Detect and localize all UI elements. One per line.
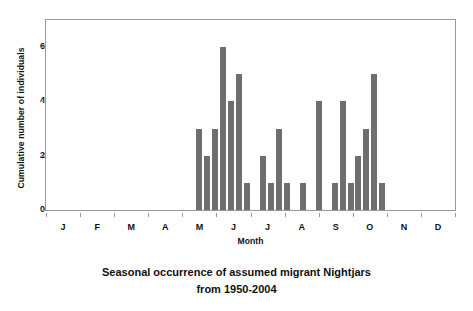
- x-tick-label: J: [256, 222, 280, 232]
- x-tick-mark: [80, 213, 81, 217]
- bar: [363, 129, 369, 210]
- bar: [236, 74, 242, 210]
- x-tick-label: O: [358, 222, 382, 232]
- bar: [228, 101, 234, 210]
- bar: [196, 129, 202, 210]
- bar: [260, 156, 266, 210]
- x-tick-mark: [216, 213, 217, 217]
- x-tick-mark: [353, 213, 354, 217]
- x-tick-mark: [421, 213, 422, 217]
- x-axis-ticks: JFMAMJJASOND: [46, 213, 455, 235]
- x-tick-mark: [148, 213, 149, 217]
- bar: [355, 156, 361, 210]
- x-tick-label: M: [119, 222, 143, 232]
- bar: [244, 183, 250, 210]
- x-tick-label: D: [426, 222, 450, 232]
- chart-title-line-2: from 1950-2004: [26, 281, 447, 298]
- bar: [340, 101, 346, 210]
- bar: [204, 156, 210, 210]
- x-tick-label: S: [324, 222, 348, 232]
- x-tick-mark: [114, 213, 115, 217]
- bar: [220, 47, 226, 210]
- chart-title: Seasonal occurrence of assumed migrant N…: [26, 264, 447, 298]
- bar: [332, 183, 338, 210]
- x-tick-mark: [319, 213, 320, 217]
- x-tick-label: J: [51, 222, 75, 232]
- bar: [379, 183, 385, 210]
- bar: [284, 183, 290, 210]
- x-tick-mark: [285, 213, 286, 217]
- x-tick-label: J: [221, 222, 245, 232]
- chart-figure: Cumulative number of individuals 0246 JF…: [0, 0, 473, 311]
- x-tick-mark: [251, 213, 252, 217]
- bar: [348, 183, 354, 210]
- bar: [276, 129, 282, 210]
- x-tick-label: A: [153, 222, 177, 232]
- bar: [316, 101, 322, 210]
- bar: [371, 74, 377, 210]
- x-tick-mark: [387, 213, 388, 217]
- x-tick-label: M: [187, 222, 211, 232]
- bar-series: [46, 20, 455, 210]
- x-tick-mark: [46, 213, 47, 217]
- plot-area: [46, 20, 455, 210]
- x-tick-mark: [182, 213, 183, 217]
- chart-title-line-1: Seasonal occurrence of assumed migrant N…: [102, 266, 371, 278]
- x-tick-label: A: [290, 222, 314, 232]
- x-axis-label: Month: [45, 236, 456, 246]
- x-tick-label: N: [392, 222, 416, 232]
- x-tick-mark: [455, 213, 456, 217]
- x-tick-label: F: [85, 222, 109, 232]
- bar: [300, 183, 306, 210]
- bar: [268, 183, 274, 210]
- bar: [212, 129, 218, 210]
